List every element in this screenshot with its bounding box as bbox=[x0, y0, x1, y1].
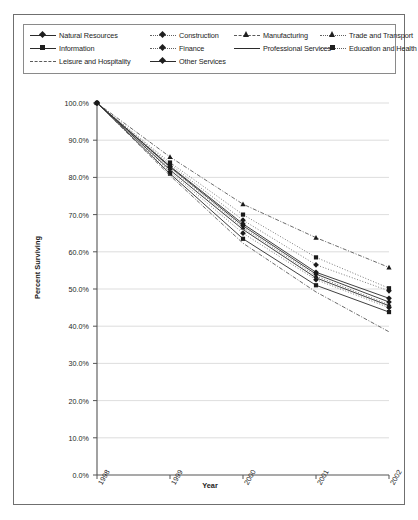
legend-swatch-icon bbox=[234, 43, 260, 54]
legend-item-manufacturing[interactable]: Manufacturing bbox=[234, 29, 308, 42]
legend-swatch-icon bbox=[150, 56, 176, 67]
plot-area: Percent Surviving Year 100.0%90.0%80.0%7… bbox=[14, 77, 406, 505]
legend-swatch-icon bbox=[30, 43, 56, 54]
legend-label: Manufacturing bbox=[260, 31, 308, 40]
legend-item-construction[interactable]: Construction bbox=[150, 29, 219, 42]
legend-label: Education and Health bbox=[346, 44, 417, 53]
y-tick-label: 40.0% bbox=[45, 322, 89, 331]
y-axis-title: Percent Surviving bbox=[33, 223, 42, 313]
data-point bbox=[314, 255, 318, 259]
data-point bbox=[241, 237, 245, 241]
series-line bbox=[97, 103, 389, 298]
y-tick-label: 0.0% bbox=[45, 471, 89, 480]
legend-label: Trade and Transport bbox=[346, 31, 413, 40]
x-axis-title: Year bbox=[14, 481, 406, 490]
y-tick-label: 70.0% bbox=[45, 211, 89, 220]
legend-swatch-icon bbox=[150, 43, 176, 54]
legend-label: Construction bbox=[176, 31, 219, 40]
legend-label: Information bbox=[56, 44, 94, 53]
y-tick-label: 10.0% bbox=[45, 434, 89, 443]
legend-item-natural-resources[interactable]: Natural Resources bbox=[30, 29, 118, 42]
data-point bbox=[240, 202, 245, 207]
data-point bbox=[314, 283, 318, 287]
legend-swatch-icon bbox=[320, 43, 346, 54]
legend-item-professional-services[interactable]: Professional Services bbox=[234, 42, 331, 55]
y-tick-label: 30.0% bbox=[45, 359, 89, 368]
y-tick-label: 60.0% bbox=[45, 248, 89, 257]
legend-swatch-icon bbox=[30, 30, 56, 41]
series-line bbox=[97, 103, 389, 312]
legend-label: Other Services bbox=[176, 57, 226, 66]
legend-item-education-and-health[interactable]: Education and Health bbox=[320, 42, 417, 55]
legend-item-leisure-and-hospitality[interactable]: Leisure and Hospitality bbox=[30, 55, 131, 68]
y-tick-label: 100.0% bbox=[45, 99, 89, 108]
data-point bbox=[387, 286, 391, 290]
legend-label: Leisure and Hospitality bbox=[56, 57, 131, 66]
chart-legend: Natural ResourcesInformationLeisure and … bbox=[23, 24, 396, 74]
legend-item-information[interactable]: Information bbox=[30, 42, 94, 55]
data-point bbox=[387, 310, 391, 314]
legend-swatch-icon bbox=[234, 30, 260, 41]
series-line bbox=[97, 103, 389, 291]
legend-label: Natural Resources bbox=[56, 31, 118, 40]
legend-label: Finance bbox=[176, 44, 204, 53]
legend-item-other-services[interactable]: Other Services bbox=[150, 55, 226, 68]
data-point bbox=[386, 265, 391, 270]
data-point bbox=[241, 213, 245, 217]
y-tick-label: 50.0% bbox=[45, 285, 89, 294]
data-point bbox=[167, 154, 172, 159]
chart-frame: Natural ResourcesInformationLeisure and … bbox=[13, 14, 405, 505]
legend-swatch-icon bbox=[30, 56, 56, 67]
data-point bbox=[313, 262, 319, 268]
legend-item-finance[interactable]: Finance bbox=[150, 42, 204, 55]
data-point bbox=[168, 160, 172, 164]
legend-swatch-icon bbox=[320, 30, 346, 41]
y-tick-label: 90.0% bbox=[45, 136, 89, 145]
data-point bbox=[313, 235, 318, 240]
y-tick-label: 80.0% bbox=[45, 173, 89, 182]
legend-swatch-icon bbox=[150, 30, 176, 41]
series-line bbox=[97, 103, 389, 288]
y-tick-label: 20.0% bbox=[45, 397, 89, 406]
legend-item-trade-and-transport[interactable]: Trade and Transport bbox=[320, 29, 413, 42]
series-line bbox=[97, 103, 389, 267]
